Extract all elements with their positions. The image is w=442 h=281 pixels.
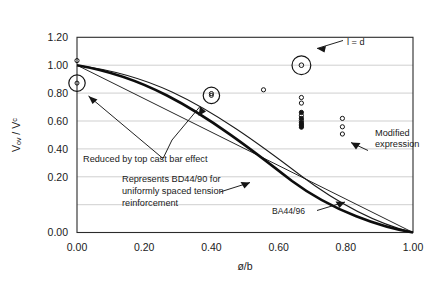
y-tick-label: 0.00 [48, 226, 69, 238]
annotation-l-equals-d: l = d [347, 37, 365, 47]
y-tick-label: 1.20 [48, 31, 69, 43]
x-axis-title: ø/b [237, 260, 252, 272]
annotation-represents-line1: Represents BD44/90 for [122, 174, 221, 184]
y-tick-label: 0.20 [48, 171, 69, 183]
y-tick-label: 0.60 [48, 115, 69, 127]
chart-figure: 1.20 1.00 0.80 0.60 0.40 0.20 0.00 0.00 … [0, 0, 442, 281]
annotation-ba4496: BA44/96 [272, 206, 305, 216]
y-tick-label: 1.00 [48, 59, 69, 71]
x-tick-label: 0.40 [201, 241, 222, 253]
x-tick-label: 0.60 [268, 241, 289, 253]
y-tick-label: 0.80 [48, 87, 69, 99]
y-axis-title: Vₒᵥ / Vᶜ [10, 118, 22, 152]
x-tick-label: 0.20 [134, 241, 155, 253]
x-tick-label: 1.00 [403, 241, 424, 253]
data-point [299, 125, 303, 129]
annotation-represents-line3: reinforcement [122, 198, 179, 208]
y-tick-label: 0.40 [48, 143, 69, 155]
x-tick-label: 0.00 [67, 241, 88, 253]
chart-svg: 1.20 1.00 0.80 0.60 0.40 0.20 0.00 0.00 … [0, 0, 442, 281]
annotation-represents-line2: uniformly spaced tension [122, 186, 224, 196]
x-tick-label: 0.80 [336, 241, 357, 253]
annotation-modified-line1: Modified [375, 128, 410, 138]
annotation-reduced-by-top-cast-bar: Reduced by top cast bar effect [83, 154, 208, 164]
annotation-modified-line2: expression [375, 139, 419, 149]
